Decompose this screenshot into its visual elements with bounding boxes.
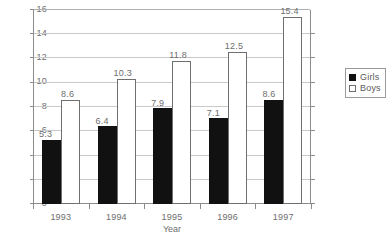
x-axis-label-1994: 1994 (94, 212, 138, 222)
bar-group-1994: 6.4 10.3 (89, 10, 145, 204)
bar-label-girls-1995: 7.9 (151, 99, 164, 108)
x-axis-label-1995: 1995 (150, 212, 194, 222)
bar-label-boys-1996: 12.5 (225, 42, 243, 51)
x-axis-title: Year (142, 224, 202, 234)
bar-label-girls-1997: 8.6 (262, 90, 275, 99)
legend-label-girls: Girls (360, 73, 380, 82)
x-axis-tick-start (33, 204, 34, 209)
bar-boys-1993[interactable] (61, 100, 80, 204)
bars-layer: 5.3 8.6 6.4 10.3 7.9 11.8 7.1 12.5 (33, 10, 311, 204)
bar-boys-1994[interactable] (117, 79, 136, 204)
legend-item-boys[interactable]: Boys (349, 83, 382, 94)
bar-boys-1995[interactable] (172, 61, 191, 204)
bar-girls-1994[interactable] (98, 126, 117, 204)
bar-chart: 16 14 12 10 8 6 4 2 0 (0, 0, 389, 245)
bar-label-boys-1993: 8.6 (61, 90, 74, 99)
bar-boys-1997[interactable] (283, 17, 302, 204)
x-axis-label-1997: 1997 (261, 212, 305, 222)
bar-label-girls-1996: 7.1 (207, 109, 220, 118)
bar-girls-1996[interactable] (209, 118, 228, 204)
x-axis-tick-3 (200, 204, 201, 209)
bar-label-boys-1997: 15.4 (280, 7, 298, 16)
legend-swatch-filled-square-icon (349, 74, 356, 81)
bar-girls-1993[interactable] (42, 140, 61, 204)
bar-label-girls-1994: 6.4 (96, 117, 109, 126)
legend: Girls Boys (345, 68, 386, 98)
bar-label-boys-1995: 11.8 (169, 51, 187, 60)
bar-group-1993: 5.3 8.6 (33, 10, 89, 204)
bar-label-girls-1993: 5.3 (39, 130, 52, 139)
legend-item-girls[interactable]: Girls (349, 72, 382, 83)
bar-girls-1997[interactable] (264, 100, 283, 204)
x-axis-tick-1 (89, 204, 90, 209)
bar-group-1995: 7.9 11.8 (144, 10, 200, 204)
x-axis-tick-4 (255, 204, 256, 209)
bar-label-boys-1994: 10.3 (114, 69, 132, 78)
x-axis-tick-2 (144, 204, 145, 209)
legend-label-boys: Boys (360, 84, 381, 93)
x-axis-label-1993: 1993 (39, 212, 83, 222)
bar-boys-1996[interactable] (228, 52, 247, 204)
bar-group-1996: 7.1 12.5 (200, 10, 256, 204)
bar-girls-1995[interactable] (153, 108, 172, 204)
x-axis-label-1996: 1996 (206, 212, 250, 222)
bar-group-1997: 8.6 15.4 (255, 10, 311, 204)
x-axis-tick-end (311, 204, 312, 209)
legend-swatch-open-square-icon (349, 85, 356, 92)
